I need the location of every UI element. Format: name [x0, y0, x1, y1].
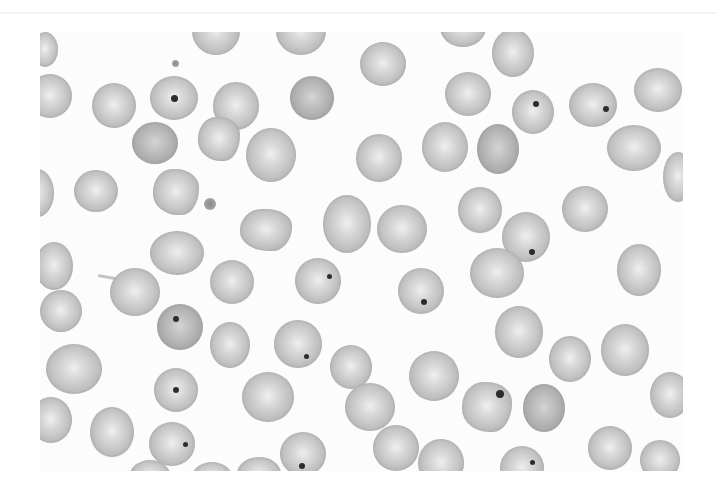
red-cell	[440, 32, 486, 47]
red-cell	[409, 351, 459, 401]
red-cell	[40, 32, 58, 67]
red-cell-with-inclusion	[569, 83, 617, 127]
red-cell	[246, 128, 296, 182]
red-cell	[617, 244, 661, 296]
platelet-fragment	[172, 60, 179, 67]
red-cell	[92, 83, 136, 128]
red-cell	[640, 440, 680, 471]
red-cell-with-inclusion	[150, 76, 198, 120]
red-cell-with-inclusion	[157, 304, 203, 350]
red-cell-with-inclusion	[149, 422, 195, 466]
red-cell	[276, 32, 326, 55]
red-cell	[210, 260, 254, 304]
red-cell	[663, 152, 683, 202]
red-cell	[588, 426, 632, 470]
inclusion-body	[603, 106, 609, 112]
inclusion-body	[183, 442, 188, 447]
red-cell-with-inclusion	[398, 268, 444, 314]
red-cell-with-inclusion	[274, 320, 322, 368]
red-cell	[470, 248, 524, 298]
inclusion-body	[530, 460, 535, 465]
red-cell	[549, 336, 591, 382]
inclusion-body	[533, 101, 539, 107]
red-cell	[40, 169, 54, 217]
red-cell	[46, 344, 102, 394]
red-cell	[237, 457, 281, 471]
red-cell	[477, 124, 519, 174]
red-cell	[495, 306, 543, 358]
red-cell	[198, 117, 240, 161]
red-cell-with-inclusion	[154, 368, 198, 412]
red-cell	[360, 42, 406, 86]
red-cell	[192, 32, 240, 55]
inclusion-body	[529, 249, 535, 255]
inclusion-body	[304, 354, 309, 359]
red-cell	[377, 205, 427, 253]
red-cell	[90, 407, 134, 457]
red-cell	[422, 122, 468, 172]
inclusion-body	[299, 463, 305, 469]
red-cell	[132, 122, 178, 164]
red-cell	[562, 186, 608, 232]
red-cell	[373, 425, 419, 471]
red-cell	[40, 242, 73, 290]
red-cell	[345, 383, 395, 431]
red-cell	[240, 209, 292, 251]
red-cell	[242, 372, 294, 422]
red-cell	[601, 324, 649, 376]
red-cell	[153, 169, 199, 215]
red-cell	[40, 74, 72, 118]
red-cell	[110, 268, 160, 316]
red-cell	[192, 462, 232, 471]
red-cell-with-inclusion	[462, 382, 512, 432]
inclusion-body	[496, 390, 504, 398]
red-cell-with-inclusion	[512, 90, 554, 134]
inclusion-body	[171, 95, 178, 102]
inclusion-body	[421, 299, 427, 305]
red-cell-with-inclusion	[500, 446, 544, 471]
micrograph-image	[40, 32, 683, 471]
inclusion-body	[173, 316, 179, 322]
red-cell	[210, 322, 250, 368]
red-cell	[323, 195, 371, 253]
top-border-line	[0, 12, 717, 14]
red-cell	[523, 384, 565, 432]
inclusion-body	[173, 387, 179, 393]
red-cell	[607, 125, 661, 171]
red-cell	[492, 32, 534, 77]
red-cell	[40, 290, 82, 332]
red-cell	[418, 439, 464, 471]
red-cell	[74, 170, 118, 212]
red-cell	[356, 134, 402, 182]
red-cell	[445, 72, 491, 116]
red-cell	[150, 231, 204, 275]
red-cell	[650, 372, 683, 418]
red-cell-with-inclusion	[295, 258, 341, 304]
inclusion-body	[327, 274, 332, 279]
red-cell	[290, 76, 334, 120]
red-cell	[40, 397, 72, 443]
red-cell	[458, 187, 502, 233]
platelet-fragment	[204, 198, 216, 210]
red-cell	[634, 68, 682, 112]
red-cell-with-inclusion	[280, 432, 326, 471]
